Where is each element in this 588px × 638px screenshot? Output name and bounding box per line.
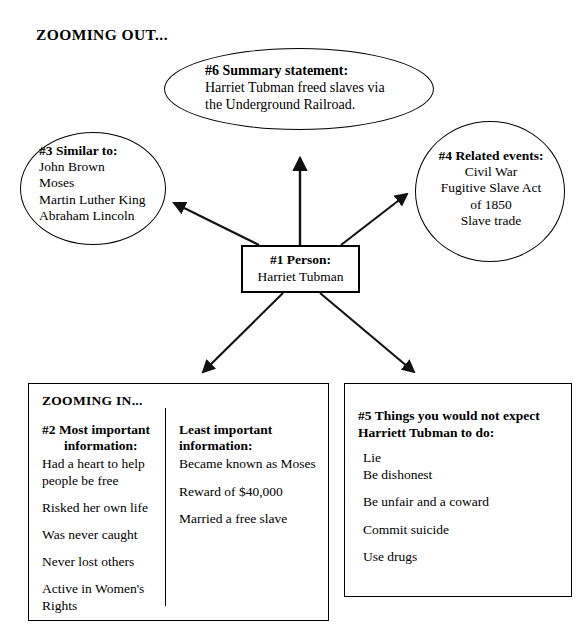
most-important-heading: #2 Most important information: [42, 422, 163, 454]
not-expect-heading-line-1: #5 Things you would not expect [358, 408, 540, 425]
most-important-item: Risked her own life [42, 500, 163, 516]
similar-to-item: Martin Luther King [39, 192, 171, 208]
column-divider [165, 408, 166, 606]
person-heading: #1 Person: [243, 252, 358, 269]
least-important-heading-line-1: Least important [179, 422, 324, 438]
related-events-text: #4 Related events: Civil War Fugitive Sl… [424, 148, 558, 229]
similar-to-text: #3 Similar to: John Brown Moses Martin L… [39, 143, 171, 224]
related-events-item: of 1850 [424, 197, 558, 213]
not-expect-item: Be dishonest [363, 467, 563, 483]
related-events-circle: #4 Related events: Civil War Fugitive Sl… [415, 121, 565, 262]
not-expect-item: Lie [363, 450, 563, 466]
not-expect-item: Use drugs [363, 549, 563, 565]
most-important-item: Never lost others [42, 554, 163, 570]
most-important-heading-line-1: #2 Most important [42, 422, 150, 437]
zooming-out-label: ZOOMING OUT... [36, 26, 168, 44]
person-name: Harriet Tubman [243, 269, 358, 286]
similar-to-circle: #3 Similar to: John Brown Moses Martin L… [20, 132, 166, 245]
similar-to-item: Moses [39, 175, 171, 191]
most-important-item: Active in Women's Rights [42, 581, 163, 613]
arrow-person-to-zooming-in [203, 293, 283, 372]
zooming-in-box: ZOOMING IN... #2 Most important informat… [28, 383, 329, 621]
most-important-column: #2 Most important information: Had a hea… [29, 422, 167, 625]
related-events-item: Civil War [424, 164, 558, 180]
least-important-heading: Least important information: [179, 422, 324, 454]
least-important-heading-line-2: information: [179, 438, 324, 454]
least-important-column: Least important information: Became know… [167, 422, 330, 625]
summary-heading: #6 Summary statement: [205, 62, 415, 79]
related-events-item: Slave trade [424, 213, 558, 229]
arrow-person-to-related [341, 194, 407, 245]
least-important-item: Married a free slave [179, 511, 324, 527]
summary-statement-text: #6 Summary statement: Harriet Tubman fre… [205, 62, 415, 113]
graphic-organizer-page: ZOOMING OUT... #6 Summary statement: Har… [0, 0, 588, 638]
similar-to-item: Abraham Lincoln [39, 208, 171, 224]
not-expect-list: Lie Be dishonest Be unfair and a coward … [363, 450, 563, 576]
not-expect-item: Be unfair and a coward [363, 494, 563, 510]
arrow-person-to-not-expect [320, 293, 414, 372]
summary-line-1: Harriet Tubman freed slaves via [205, 79, 415, 96]
not-expect-item: Commit suicide [363, 522, 563, 538]
most-important-heading-line-2: information: [42, 438, 163, 454]
summary-line-2: the Underground Railroad. [205, 96, 415, 113]
similar-to-item: John Brown [39, 159, 171, 175]
not-expect-heading: #5 Things you would not expect Harriett … [358, 408, 540, 442]
related-events-heading: #4 Related events: [424, 148, 558, 164]
not-expect-box: #5 Things you would not expect Harriett … [344, 383, 572, 597]
not-expect-heading-line-2: Harriett Tubman to do: [358, 425, 540, 442]
zooming-in-label: ZOOMING IN... [42, 393, 143, 409]
least-important-item: Reward of $40,000 [179, 484, 324, 500]
arrow-person-to-similar [174, 203, 259, 245]
related-events-item: Fugitive Slave Act [424, 180, 558, 196]
summary-statement-ellipse: #6 Summary statement: Harriet Tubman fre… [164, 48, 434, 130]
most-important-item: Was never caught [42, 527, 163, 543]
most-important-item: Had a heart to help people be free [42, 456, 163, 488]
similar-to-heading: #3 Similar to: [39, 143, 171, 159]
least-important-item: Became known as Moses [179, 456, 324, 472]
person-box: #1 Person: Harriet Tubman [241, 245, 360, 293]
zooming-in-columns: #2 Most important information: Had a hea… [29, 422, 330, 625]
